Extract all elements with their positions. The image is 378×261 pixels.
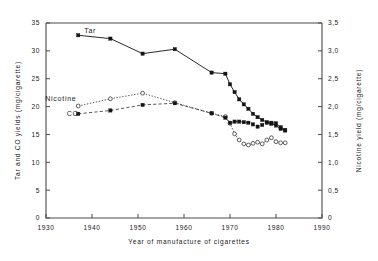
data-point-co [251, 123, 254, 126]
data-point-nicotine [141, 91, 145, 95]
data-point-co [242, 121, 245, 124]
y-axis-title: Tar and CO yields (mg/cigarette) [14, 61, 22, 180]
data-point-nicotine [233, 132, 237, 136]
data-point-tar [251, 112, 254, 115]
data-point-co [233, 120, 236, 123]
data-point-co [270, 121, 273, 124]
y2-axis-tick-label: 1,0 [328, 159, 339, 166]
y-axis-tick-label: 20 [32, 103, 40, 110]
x-axis-tick-label: 1960 [176, 224, 193, 231]
series-label-co: CO [67, 110, 79, 117]
x-axis-tick-label: 1980 [268, 224, 285, 231]
data-point-co [247, 121, 250, 124]
data-point-tar [141, 52, 144, 55]
plot-frame [46, 23, 322, 218]
data-point-tar [224, 72, 227, 75]
data-point-co [228, 121, 231, 124]
data-point-co [109, 109, 112, 112]
chart-container: 0510152025303500,51,01,52,02,53,03,51930… [0, 0, 378, 261]
series-annotations: TarNicotineCO [45, 27, 96, 116]
y-axis-tick-label: 30 [32, 47, 40, 54]
data-point-nicotine [237, 138, 241, 142]
data-point-nicotine [265, 138, 269, 142]
x-axis-tick-label: 1940 [84, 224, 101, 231]
data-point-nicotine [247, 143, 251, 147]
data-point-co [284, 128, 287, 131]
y2-axis-tick-label: 2,0 [328, 103, 339, 110]
data-point-co [265, 121, 268, 124]
data-point-tar [256, 116, 259, 119]
y2-axis-tick-label: 0 [328, 214, 332, 221]
data-point-tar [173, 48, 176, 51]
data-point-co [141, 103, 144, 106]
data-point-co [274, 122, 277, 125]
data-point-nicotine [256, 140, 260, 144]
data-point-co [261, 123, 264, 126]
data-point-nicotine [274, 140, 278, 144]
x-axis-tick-label: 1930 [38, 224, 55, 231]
data-point-nicotine [76, 104, 80, 108]
data-point-nicotine [251, 141, 255, 145]
data-point-tar [210, 71, 213, 74]
y-axis-tick-label: 5 [36, 187, 40, 194]
y-axis-tick-label: 25 [32, 75, 40, 82]
x-axis-tick-label: 1970 [222, 224, 239, 231]
x-axis-title: Year of manufacture of cigarettes [128, 238, 250, 246]
series-line-nicotine [78, 93, 285, 145]
y2-axis-tick-label: 1,5 [328, 131, 339, 138]
y-axis-tick-label: 0 [36, 214, 40, 221]
data-point-nicotine [109, 97, 113, 101]
data-point-nicotine [279, 141, 283, 145]
y-axis-tick-label: 35 [32, 19, 40, 26]
data-point-nicotine [270, 136, 274, 140]
data-point-co [279, 126, 282, 129]
data-point-co [238, 120, 241, 123]
y2-axis-tick-label: 2,5 [328, 75, 339, 82]
data-point-tar [261, 118, 264, 121]
data-point-nicotine [283, 141, 287, 145]
data-point-tar [247, 107, 250, 110]
data-point-tar [238, 98, 241, 101]
y-axis-tick-label: 15 [32, 131, 40, 138]
y2-axis-title: Nicotine yield (mg/cigarette) [355, 69, 363, 172]
data-point-nicotine [260, 142, 264, 146]
y2-axis-tick-label: 3,5 [328, 19, 339, 26]
series-label-nicotine: Nicotine [45, 95, 76, 102]
data-point-co [224, 116, 227, 119]
data-point-co [173, 102, 176, 105]
data-point-tar [233, 90, 236, 93]
data-point-tar [242, 103, 245, 106]
data-point-nicotine [242, 142, 246, 146]
y2-axis-tick-label: 0,5 [328, 187, 339, 194]
axes-group: 0510152025303500,51,01,52,02,53,03,51930… [14, 19, 363, 246]
series-label-tar: Tar [84, 27, 96, 34]
x-axis-tick-label: 1950 [130, 224, 147, 231]
tar-nicotine-co-line-chart: 0510152025303500,51,01,52,02,53,03,51930… [0, 0, 378, 261]
series-line-tar [78, 35, 285, 130]
y-axis-tick-label: 10 [32, 159, 40, 166]
data-point-tar [228, 83, 231, 86]
y2-axis-tick-label: 3,0 [328, 47, 339, 54]
data-point-co [210, 112, 213, 115]
data-point-co [256, 125, 259, 128]
series-group [76, 34, 287, 147]
x-axis-tick-label: 1990 [314, 224, 331, 231]
data-point-tar [77, 34, 80, 37]
data-point-tar [109, 37, 112, 40]
